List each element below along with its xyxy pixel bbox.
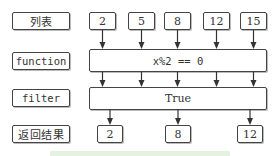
- flow-arrows: [0, 0, 277, 156]
- bottom-highlight-band: [50, 151, 230, 156]
